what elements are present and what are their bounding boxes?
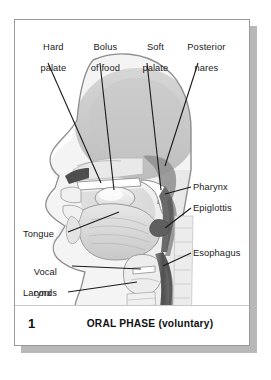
label-larynx: Larynx: [23, 288, 52, 299]
label-hard-palate-line1: Hard: [43, 42, 64, 52]
label-vocal-cords: Vocal cords: [23, 256, 71, 309]
label-hard-palate: Hard palate: [21, 31, 75, 84]
label-tongue: Tongue: [23, 229, 54, 240]
label-posterior-nares-line2: nares: [194, 63, 218, 73]
label-bolus-of-food-line2: of food: [91, 63, 120, 73]
label-soft-palate: Soft palate: [127, 31, 173, 84]
label-posterior-nares-line1: Posterior: [187, 42, 225, 52]
larynx-structure: [123, 254, 162, 294]
caption-number: 1: [28, 316, 35, 331]
label-bolus-of-food-line1: Bolus: [93, 42, 117, 52]
figure-frame: Hard palate Bolus of food Soft palate Po…: [14, 19, 250, 346]
label-hard-palate-line2: palate: [40, 63, 66, 73]
label-vocal-cords-line1: Vocal: [34, 267, 57, 277]
label-soft-palate-line1: Soft: [147, 42, 164, 52]
label-pharynx: Pharynx: [193, 182, 228, 193]
caption-title: ORAL PHASE (voluntary): [61, 318, 239, 329]
epiglottis-structure: [150, 219, 169, 236]
label-epiglottis: Epiglottis: [193, 203, 232, 214]
label-posterior-nares: Posterior nares: [168, 31, 234, 84]
label-soft-palate-line2: palate: [142, 63, 168, 73]
caption-bar: 1 ORAL PHASE (voluntary): [15, 305, 249, 345]
label-esophagus: Esophagus: [193, 248, 240, 259]
label-bolus-of-food: Bolus of food: [73, 31, 127, 84]
